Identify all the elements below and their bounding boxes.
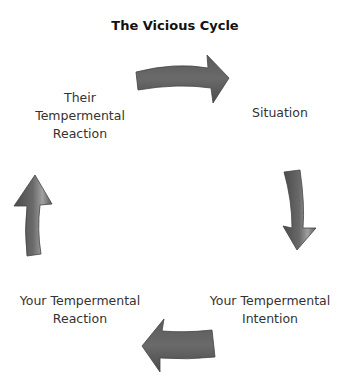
arrow-up-icon xyxy=(14,175,52,256)
arrow-left-icon xyxy=(142,319,215,372)
arrow-right-icon xyxy=(136,55,229,103)
cycle-arrows xyxy=(0,0,350,384)
arrow-down-icon xyxy=(283,170,316,250)
